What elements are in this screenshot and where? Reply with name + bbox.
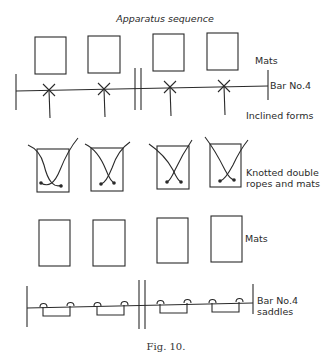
label-bar-saddles-line2: saddles <box>257 306 293 317</box>
label-bar: Bar No.4 <box>270 80 311 91</box>
mats-row-bottom <box>39 216 242 266</box>
ropes-row <box>28 137 248 192</box>
label-bar-saddles-line1: Bar No.4 <box>257 295 298 306</box>
diagram-title: Apparatus sequence <box>115 13 214 24</box>
label-inclined-forms: Inclined forms <box>246 110 313 121</box>
label-mats-bottom: Mats <box>245 233 268 244</box>
label-ropes-line1: Knotted double <box>246 167 319 178</box>
figure-caption: Fig. 10. <box>147 341 186 352</box>
label-ropes-line2: ropes and mats <box>246 178 320 189</box>
apparatus-diagram: Apparatus sequence Mats Bar No.4 Incline… <box>0 0 331 363</box>
bar-saddles <box>27 280 253 329</box>
label-mats-top: Mats <box>255 55 278 66</box>
mats-row-top <box>35 33 238 74</box>
bar-no4 <box>16 68 268 118</box>
